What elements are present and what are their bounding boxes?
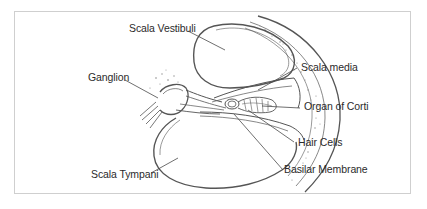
cochlea-diagram: Scala Vestibuli Ganglion Scala media Org… — [0, 0, 427, 209]
organ-of-corti — [225, 97, 276, 113]
label-organ-of-corti: Organ of Corti — [304, 100, 369, 112]
label-scala-media: Scala media — [301, 61, 358, 73]
basilar-membrane — [200, 112, 304, 140]
leader-ganglion — [125, 80, 158, 98]
leader-hair-cells — [248, 110, 294, 142]
label-hair-cells: Hair Cells — [298, 136, 343, 148]
label-ganglion: Ganglion — [88, 71, 129, 83]
label-scala-vestibuli: Scala Vestibuli — [129, 22, 196, 34]
label-basilar-membrane: Basilar Membrane — [284, 163, 368, 175]
label-scala-tympani: Scala Tympani — [91, 168, 158, 180]
spiral-lamina — [176, 90, 226, 114]
ganglion — [140, 70, 188, 129]
leader-scala-media — [258, 68, 297, 90]
